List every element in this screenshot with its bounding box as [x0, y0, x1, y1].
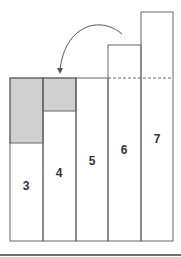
bar-label-6: 6: [121, 143, 128, 157]
bar-label-4: 4: [56, 166, 63, 180]
arrowhead-icon: [57, 68, 63, 74]
bar-label-3: 3: [23, 179, 30, 193]
bar-redistribution-diagram: 3 4 5 6 7: [0, 0, 181, 257]
shaded-region-bar-3: [10, 78, 43, 143]
bar-label-5: 5: [89, 154, 96, 168]
shaded-region-bar-4: [43, 78, 76, 111]
curved-arrow-icon: [60, 25, 122, 70]
bar-label-7: 7: [154, 132, 161, 146]
bar-7: [141, 12, 173, 241]
